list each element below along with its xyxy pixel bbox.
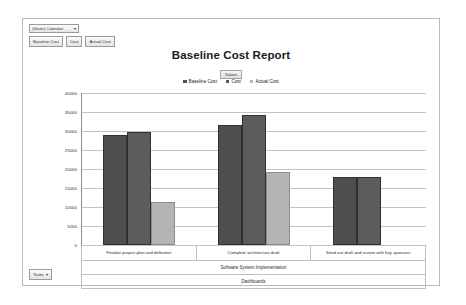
- calendar-dropdown[interactable]: (Static) Calendar ▾: [29, 24, 79, 33]
- y-tick-label: 35000: [65, 110, 77, 115]
- y-tick-label: 0: [75, 243, 77, 248]
- category-label: Complete architecture draft: [197, 245, 312, 261]
- bar-baseline-cost[interactable]: [218, 125, 242, 245]
- bar-group: [81, 93, 196, 245]
- y-tick-label: 5000: [67, 224, 77, 229]
- y-tick-label: 30000: [65, 129, 77, 134]
- y-tick-label: 25000: [65, 148, 77, 153]
- chart-title: Baseline Cost Report: [23, 49, 439, 61]
- bar-group: [311, 93, 426, 245]
- tasks-dropdown-label: Tasks: [33, 272, 44, 277]
- group-label-level2: Software System Implementation: [81, 261, 426, 275]
- category-axis: Finalize project plan and definition Com…: [81, 245, 426, 261]
- tasks-dropdown[interactable]: Tasks ▾: [29, 269, 52, 280]
- group-label-level3: Dashboards: [81, 275, 426, 289]
- y-tick-label: 15000: [65, 186, 77, 191]
- y-axis-tick-labels: 4000035000300002500020000150001000050000: [49, 93, 79, 245]
- chevron-down-icon: ▾: [46, 272, 48, 277]
- measure-button-row: Baseline Cost Cost Actual Cost: [29, 36, 115, 47]
- legend-label: Actual Cost: [255, 79, 279, 84]
- legend-item-cost[interactable]: Cost: [226, 79, 241, 84]
- legend-swatch-icon: [226, 80, 230, 84]
- y-tick-label: 20000: [65, 167, 77, 172]
- bar-actual-cost[interactable]: [266, 172, 290, 245]
- chart-legend: Baseline Cost Cost Actual Cost: [23, 79, 439, 84]
- legend-label: Baseline Cost: [189, 79, 217, 84]
- bar-cost[interactable]: [127, 132, 151, 245]
- chevron-down-icon: ▾: [74, 26, 76, 31]
- bar-baseline-cost[interactable]: [333, 177, 357, 245]
- bar-groups: [81, 93, 426, 245]
- cost-button[interactable]: Cost: [66, 36, 83, 47]
- bar-cost[interactable]: [242, 115, 266, 245]
- legend-label: Cost: [231, 79, 240, 84]
- actual-cost-button[interactable]: Actual Cost: [85, 36, 114, 47]
- legend-item-baseline-cost[interactable]: Baseline Cost: [183, 79, 217, 84]
- y-tick-label: 40000: [65, 91, 77, 96]
- bar-baseline-cost[interactable]: [103, 135, 127, 245]
- bar-actual-cost[interactable]: [151, 202, 175, 245]
- category-label: Finalize project plan and definition: [81, 245, 197, 261]
- calendar-dropdown-value: (Static) Calendar: [32, 26, 72, 31]
- baseline-cost-button[interactable]: Baseline Cost: [29, 36, 63, 47]
- plot-area: 4000035000300002500020000150001000050000: [81, 93, 426, 245]
- category-label: Send out draft and review with key spons…: [311, 245, 426, 261]
- legend-item-actual-cost[interactable]: Actual Cost: [250, 79, 279, 84]
- bar-cost[interactable]: [357, 177, 381, 245]
- legend-swatch-icon: [250, 80, 254, 84]
- legend-swatch-icon: [183, 80, 187, 84]
- values-tag[interactable]: Values: [220, 70, 242, 79]
- report-frame: (Static) Calendar ▾ Baseline Cost Cost A…: [22, 18, 440, 286]
- y-tick-label: 10000: [65, 205, 77, 210]
- bar-group: [196, 93, 311, 245]
